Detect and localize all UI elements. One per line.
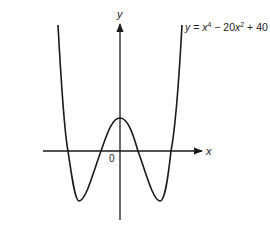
quartic-graph: y x 0 y = x4 − 20x2 + 40: [0, 0, 270, 230]
y-axis-label: y: [116, 8, 124, 20]
origin-label: 0: [109, 153, 115, 164]
x-axis-label: x: [205, 145, 212, 157]
equation-label: y = x4 − 20x2 + 40: [184, 21, 268, 33]
